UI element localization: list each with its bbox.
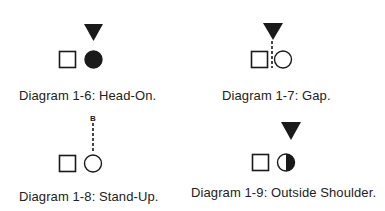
offensive-player-square-icon [253, 155, 269, 171]
filled-circle-icon [85, 51, 102, 68]
defender-triangle-icon [281, 122, 301, 140]
open-circle-icon [85, 155, 102, 172]
open-circle-icon [275, 51, 292, 68]
offensive-player-square-icon [60, 52, 76, 68]
defender-triangle-icon [263, 23, 283, 40]
diagram-stand-up: B [60, 114, 102, 172]
offensive-player-square-icon [252, 52, 268, 68]
defender-triangle-icon [84, 24, 103, 41]
caption-stand-up: Diagram 1-8: Stand-Up. [19, 189, 158, 204]
caption-outside-shoulder: Diagram 1-9: Outside Shoulder. [191, 185, 376, 200]
half-filled-circle-icon [286, 154, 295, 171]
marker-label-b: B [90, 114, 96, 123]
offensive-player-square-icon [60, 156, 76, 172]
caption-gap: Diagram 1-7: Gap. [222, 88, 331, 103]
diagram-gap [252, 23, 292, 68]
diagram-canvas: B [0, 0, 385, 211]
diagram-head-on [60, 24, 104, 68]
caption-head-on: Diagram 1-6: Head-On. [19, 88, 156, 103]
diagram-outside-shoulder [253, 122, 302, 171]
